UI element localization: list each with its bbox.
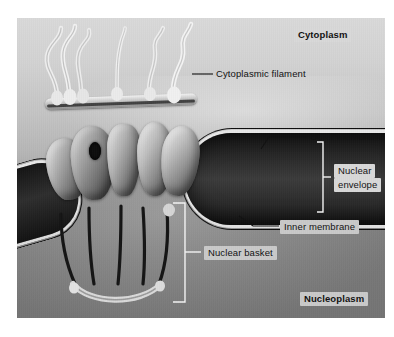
- figure-container: Cytoplasm Cytoplasmic filament Outer mem…: [0, 0, 394, 337]
- texture-grain: [17, 18, 385, 318]
- illustration-plate: Cytoplasm Cytoplasmic filament Outer mem…: [17, 18, 385, 318]
